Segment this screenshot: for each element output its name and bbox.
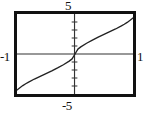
graph-screenshot: 5 -5 -1 1 <box>0 0 146 114</box>
x-min-label: -1 <box>0 50 10 63</box>
y-max-label: 5 <box>65 0 71 12</box>
plot-canvas <box>17 14 133 94</box>
plot-frame <box>14 11 136 97</box>
x-max-label: 1 <box>137 50 143 63</box>
y-min-label: -5 <box>62 99 72 112</box>
